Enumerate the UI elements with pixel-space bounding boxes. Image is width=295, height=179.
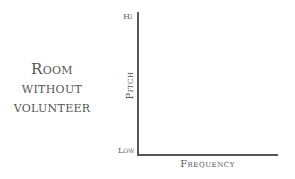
condition-line-2: without [0,79,104,98]
y-axis-label: Pitch [124,66,135,106]
y-axis [137,12,139,156]
condition-label: Room without volunteer [0,60,104,117]
condition-line-3: volunteer [0,98,104,117]
x-axis-label: Frequency [137,158,278,169]
condition-line-1: Room [0,60,104,79]
x-axis [137,154,278,156]
y-tick-low: Low [118,146,134,155]
y-tick-hi: Hi [123,12,132,21]
